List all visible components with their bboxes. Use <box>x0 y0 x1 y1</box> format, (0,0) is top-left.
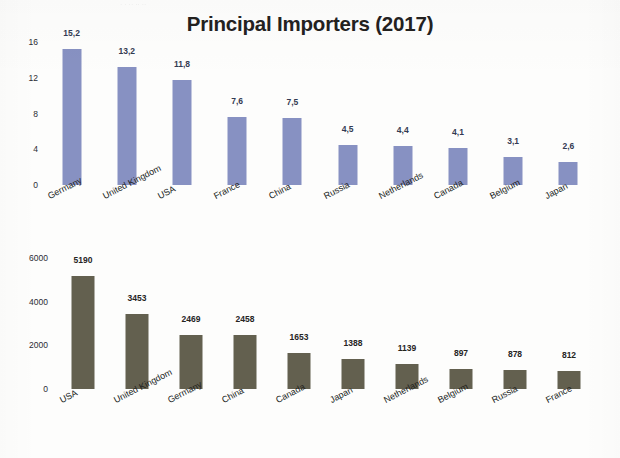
scan-ghost-header: · · ·· ·· ·· <box>120 1 510 8</box>
y-tick-value: 2000 <box>4 340 48 350</box>
y-axis-share: 0481216 <box>10 42 38 185</box>
bar-slot: 4,5 <box>320 42 375 185</box>
bar-slot: 3,1 <box>486 42 541 185</box>
y-tick-share: 4 <box>10 144 38 154</box>
bar-slot: 812 <box>542 258 596 389</box>
plot-area-share: 0481216 15,213,211,87,67,54,54,44,13,12,… <box>0 42 620 185</box>
bar-value-label: 3453 <box>128 293 147 303</box>
bar-value-label: 15,2 <box>63 28 80 38</box>
bar-group-value: 5190345324692458165313881139897878812 <box>56 258 612 389</box>
bar-value-label: 1653 <box>290 332 309 342</box>
bar-slot: 878 <box>488 258 542 389</box>
bar-usa[interactable] <box>72 276 95 389</box>
y-tick-share: 12 <box>10 73 38 83</box>
plot-area-value: 0200040006000 51903453246924581653138811… <box>0 258 620 389</box>
bar-china[interactable] <box>283 118 302 185</box>
bar-slot: 7,5 <box>265 42 320 185</box>
y-tick-value: 0 <box>4 384 48 394</box>
bar-usa[interactable] <box>172 80 191 185</box>
bar-value-label: 4,1 <box>452 127 464 137</box>
bar-slot: 2469 <box>164 258 218 389</box>
chart-importers-share: 0481216 15,213,211,87,67,54,54,44,13,12,… <box>0 42 620 237</box>
page-canvas: · · ·· ·· ·· Principal Importers (2017) … <box>0 0 620 458</box>
bar-slot: 3453 <box>110 258 164 389</box>
bar-slot: 4,1 <box>430 42 485 185</box>
y-tick-value: 4000 <box>4 297 48 307</box>
bar-slot: 15,2 <box>44 42 99 185</box>
bar-slot: 1388 <box>326 258 380 389</box>
bar-value-label: 4,5 <box>342 124 354 134</box>
bar-japan[interactable] <box>342 359 365 389</box>
bar-value-label: 812 <box>562 350 576 360</box>
x-tick-label: USA <box>58 388 79 405</box>
bar-value-label: 2,6 <box>562 141 574 151</box>
bar-slot: 5190 <box>56 258 110 389</box>
bar-slot: 13,2 <box>99 42 154 185</box>
bar-slot: 4,4 <box>375 42 430 185</box>
bar-germany[interactable] <box>62 49 81 185</box>
bar-slot: 2,6 <box>541 42 596 185</box>
bar-value-label: 4,4 <box>397 125 409 135</box>
bar-value-label: 13,2 <box>119 46 136 56</box>
x-axis-share: GermanyUnited KingdomUSAFranceChinaRussi… <box>44 188 610 240</box>
bar-value-label: 11,8 <box>174 59 190 69</box>
y-axis-value: 0200040006000 <box>4 258 48 389</box>
x-tick-label: USA <box>156 184 177 201</box>
page-title: Principal Importers (2017) <box>0 12 620 36</box>
y-tick-share: 16 <box>10 37 38 47</box>
bar-russia[interactable] <box>338 145 357 185</box>
bar-value-label: 7,6 <box>231 96 243 106</box>
bar-value-label: 1388 <box>344 338 363 348</box>
x-axis-value: USAUnited KingdomGermanyChinaCanadaJapan… <box>56 392 612 444</box>
y-tick-share: 0 <box>10 180 38 190</box>
bar-value-label: 7,5 <box>286 97 298 107</box>
bar-france[interactable] <box>228 117 247 185</box>
bar-value-label: 1139 <box>398 343 416 353</box>
bar-value-label: 5190 <box>74 255 93 265</box>
chart-importers-value: 0200040006000 51903453246924581653138811… <box>0 258 620 453</box>
bar-slot: 7,6 <box>210 42 265 185</box>
bar-slot: 2458 <box>218 258 272 389</box>
bar-slot: 1653 <box>272 258 326 389</box>
bar-value-label: 3,1 <box>507 136 519 146</box>
bar-slot: 897 <box>434 258 488 389</box>
bar-slot: 1139 <box>380 258 434 389</box>
bar-value-label: 2469 <box>182 314 201 324</box>
bar-group-share: 15,213,211,87,67,54,54,44,13,12,6 <box>44 42 610 185</box>
y-tick-share: 8 <box>10 109 38 119</box>
bar-value-label: 2458 <box>236 314 255 324</box>
y-tick-value: 6000 <box>4 253 48 263</box>
bar-value-label: 878 <box>508 349 522 359</box>
bar-united-kingdom[interactable] <box>117 67 136 185</box>
bar-slot: 11,8 <box>154 42 209 185</box>
bar-china[interactable] <box>234 335 257 389</box>
bar-value-label: 897 <box>454 348 468 358</box>
